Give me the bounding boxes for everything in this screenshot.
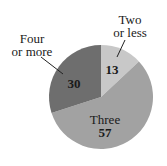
value-four-or-more: 30 xyxy=(68,76,81,91)
value-two-or-less: 13 xyxy=(106,62,120,77)
label-two-or-less-line2: or less xyxy=(113,25,147,40)
label-four-or-more-line2: or more xyxy=(12,44,53,59)
value-three: 57 xyxy=(99,125,113,140)
pie-chart: Two or less 13 Four or more 30 Three 57 xyxy=(0,0,167,166)
